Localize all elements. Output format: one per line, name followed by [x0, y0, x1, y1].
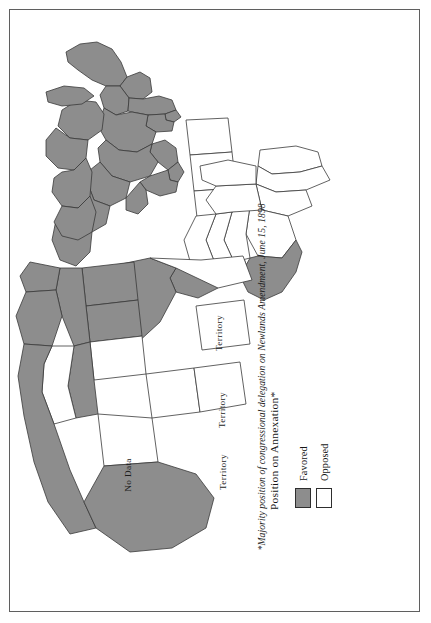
map-figure: No Data Territory Territory Territory Po…: [0, 0, 431, 623]
legend-swatch-opposed: [316, 488, 332, 508]
legend-title: Position on Annexation*: [268, 392, 280, 510]
map-canvas: No Data Territory Territory Territory: [0, 0, 431, 623]
state-colorado[interactable]: [90, 336, 146, 380]
label-territory-3: Territory: [218, 454, 228, 490]
footnote: *Majority position of congressional dele…: [256, 231, 267, 551]
legend-label-opposed: Opposed: [319, 443, 330, 481]
state-north-dakota[interactable]: [186, 118, 232, 155]
label-no-data: No Data: [123, 458, 133, 492]
legend-item-favored[interactable]: Favored: [295, 446, 311, 508]
legend: Position on Annexation* Favored Opposed: [268, 320, 408, 510]
legend-item-opposed[interactable]: Opposed: [316, 443, 332, 508]
us-states-map: No Data Territory Territory Territory: [0, 0, 431, 623]
legend-label-favored: Favored: [298, 446, 309, 481]
state-wyoming[interactable]: [86, 300, 142, 342]
state-tennessee[interactable]: [206, 184, 262, 214]
state-montana[interactable]: [82, 262, 138, 306]
state-southwest-favored[interactable]: [84, 462, 214, 552]
label-territory-2: Territory: [217, 392, 227, 428]
state-maine[interactable]: [66, 42, 127, 86]
legend-swatch-favored: [295, 488, 311, 508]
state-massachusetts[interactable]: [128, 96, 176, 115]
territory-new-mexico[interactable]: [146, 368, 200, 418]
state-oregon[interactable]: [16, 290, 62, 346]
label-territory-1: Territory: [214, 315, 224, 351]
state-washington[interactable]: [20, 262, 60, 292]
state-kentucky[interactable]: [200, 160, 256, 186]
